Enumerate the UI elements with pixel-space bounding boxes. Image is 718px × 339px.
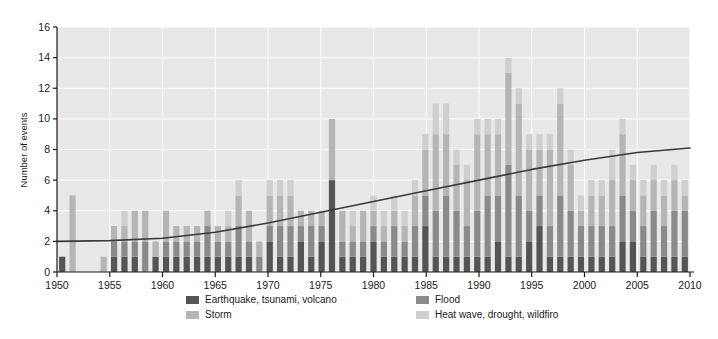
x-tick-label: 1960 [151, 279, 175, 291]
legend-label: Heat wave, drought, wildfiro [435, 309, 559, 320]
x-tick-label: 1970 [256, 279, 280, 291]
x-tick-label: 1955 [98, 279, 122, 291]
y-tick-label: 10 [38, 112, 50, 124]
x-tick-label: 1965 [204, 279, 228, 291]
legend-label: Flood [435, 294, 460, 305]
x-tick-label: 1980 [362, 279, 386, 291]
chart-figure: 0246810121416 19501955196019651970197519… [0, 0, 718, 339]
x-tick-label: 1990 [467, 279, 491, 291]
y-tick-label: 16 [38, 21, 50, 33]
y-tick-label: 0 [44, 266, 50, 278]
stacked-bar-chart: 0246810121416 19501955196019651970197519… [0, 0, 718, 339]
legend-label: Earthquake, tsunami, volcano [205, 294, 337, 305]
x-tick-label: 1995 [520, 279, 544, 291]
y-tick-label: 12 [38, 82, 50, 94]
y-tick-label: 2 [44, 235, 50, 247]
y-axis-title: Number of events [18, 112, 29, 187]
y-tick-label: 6 [44, 174, 50, 186]
x-tick-label: 1950 [45, 279, 69, 291]
x-tick-label: 2010 [678, 279, 702, 291]
x-tick-label: 2005 [626, 279, 650, 291]
x-tick-label: 2000 [573, 279, 597, 291]
x-tick-label: 1985 [415, 279, 439, 291]
x-tick-label: 1975 [309, 279, 333, 291]
y-tick-label: 14 [38, 51, 50, 63]
y-tick-label: 8 [44, 143, 50, 155]
y-tick-label: 4 [44, 204, 50, 216]
legend-label: Storm [205, 309, 232, 320]
